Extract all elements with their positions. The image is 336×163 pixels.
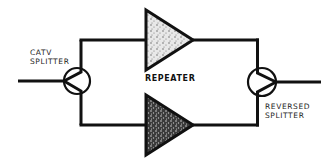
repeater-diagram: CATV SPLITTER REPEATER REVERSED SPLITTER <box>0 0 336 163</box>
reversed-splitter-label-line2: SPLITTER <box>265 111 310 120</box>
repeater-label: REPEATER <box>145 74 195 83</box>
reversed-splitter-label-line1: REVERSED <box>265 102 310 111</box>
catv-splitter-label-line1: CATV <box>30 48 69 57</box>
catv-splitter-label-line2: SPLITTER <box>30 57 69 66</box>
repeater-bottom-amplifier-icon <box>146 95 193 155</box>
repeater-top-amplifier-icon <box>146 10 193 70</box>
catv-splitter-label: CATV SPLITTER <box>30 48 69 66</box>
reversed-splitter-label: REVERSED SPLITTER <box>265 102 310 120</box>
